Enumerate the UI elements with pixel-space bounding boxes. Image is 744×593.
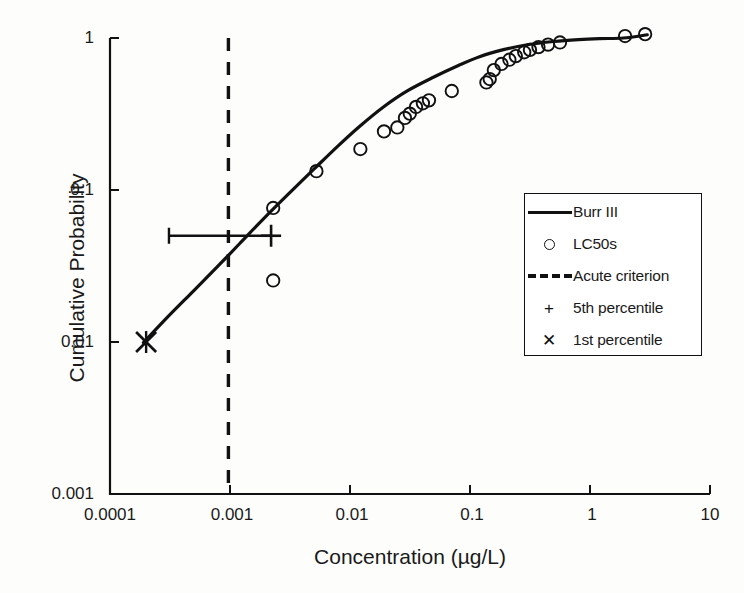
legend-label-1st-percentile: 1st percentile (573, 331, 662, 349)
legend-item-acute-criterion: Acute criterion (525, 260, 701, 292)
legend-label-acute-criterion: Acute criterion (573, 267, 669, 285)
chart-figure: 0.0001 0.001 0.01 0.1 1 10 1 0.1 0.01 0.… (0, 0, 744, 593)
solid-line-icon (525, 197, 573, 227)
legend-label-5th-percentile: 5th percentile (573, 299, 663, 317)
x-tick-label-0: 0.0001 (84, 505, 136, 525)
x-tick-label-3: 0.1 (460, 505, 484, 525)
x-tick-label-2: 0.01 (335, 505, 368, 525)
legend-label-lc50s: LC50s (573, 235, 617, 253)
y-axis-title: Cumulative Probability (65, 113, 89, 443)
x-tick-label-4: 1 (587, 505, 596, 525)
plus-marker-icon: + (525, 293, 573, 323)
x-marker-icon: ✕ (525, 325, 573, 355)
legend-item-burr-iii: Burr III (525, 196, 701, 228)
legend-item-1st-percentile: ✕ 1st percentile (525, 324, 701, 356)
y-tick-label-0: 1 (18, 28, 94, 48)
y-tick-label-3: 0.001 (18, 484, 94, 504)
x-axis-title: Concentration (µg/L) (110, 545, 710, 569)
dashed-line-icon (525, 261, 573, 291)
chart-legend: Burr III LC50s Acute criterion + 5th per… (524, 193, 702, 356)
circle-marker-icon (525, 229, 573, 259)
percentile-error-bar (169, 228, 271, 244)
x-glyph: ✕ (542, 332, 556, 349)
percentile-markers (136, 225, 281, 353)
x-tick-label-1: 0.001 (211, 505, 254, 525)
x-tick-label-5: 10 (701, 505, 720, 525)
legend-label-burr-iii: Burr III (573, 203, 618, 221)
legend-item-lc50s: LC50s (525, 228, 701, 260)
legend-item-5th-percentile: + 5th percentile (525, 292, 701, 324)
plus-glyph: + (544, 300, 554, 317)
